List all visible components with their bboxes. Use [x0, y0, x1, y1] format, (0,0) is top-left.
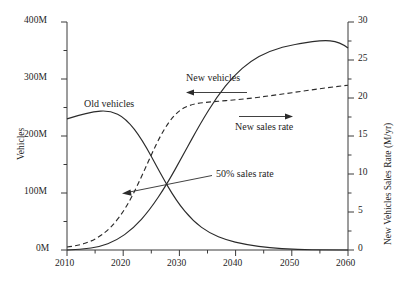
xtick-label-2010: 2010 [55, 258, 74, 268]
y2-axis-title: New Vehicles Sales Rate (M/yr) [383, 123, 393, 245]
y-axis-title: Vehicles [16, 128, 26, 160]
ytick-label-400M: 400M [24, 15, 47, 25]
label-new-vehicles: New vehicles [186, 72, 240, 83]
left-axis-major-ticks [61, 22, 67, 250]
y2tick-label-25: 25 [358, 53, 368, 63]
xtick-label-2020: 2020 [111, 258, 130, 268]
new-vehicles-arrow-annotation [186, 89, 247, 95]
y2tick-label-30: 30 [358, 15, 368, 25]
label-new-sales-rate: New sales rate [235, 121, 293, 132]
chart-figure: 400M 300M 200M 100M 0M 2010 2020 2030 20… [0, 0, 400, 292]
label-old-vehicles: Old vehicles [84, 98, 134, 109]
series-new-sales-rate [67, 85, 348, 247]
x-axis-minor-ticks [95, 250, 320, 254]
y2tick-label-5: 5 [358, 205, 363, 215]
y2tick-label-10: 10 [358, 167, 368, 177]
new-sales-rate-arrow-annotation [239, 113, 293, 119]
chart-plot-area [0, 0, 400, 292]
xtick-label-2060: 2060 [336, 258, 355, 268]
xtick-label-2030: 2030 [167, 258, 186, 268]
ytick-label-200M: 200M [24, 129, 47, 139]
y2tick-label-15: 15 [358, 129, 368, 139]
right-axis-major-ticks [348, 22, 354, 250]
xtick-label-2040: 2040 [223, 258, 242, 268]
ytick-label-0M: 0M [36, 243, 49, 253]
ytick-label-100M: 100M [24, 186, 47, 196]
xtick-label-2050: 2050 [280, 258, 299, 268]
series-old-vehicles [67, 111, 348, 250]
label-fifty-percent-sales-rate: 50% sales rate [216, 168, 274, 179]
y2tick-label-0: 0 [358, 243, 363, 253]
ytick-label-300M: 300M [24, 72, 47, 82]
y2tick-label-20: 20 [358, 91, 368, 101]
